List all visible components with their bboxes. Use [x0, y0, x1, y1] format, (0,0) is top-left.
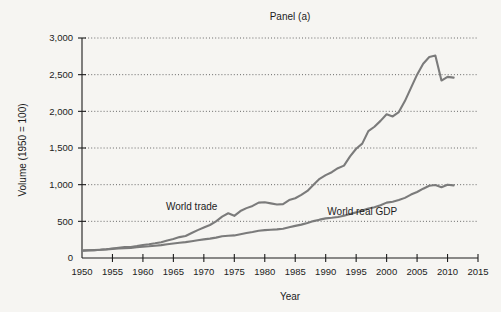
y-tick-label: 3,000 [49, 32, 73, 43]
x-tick-label: 1970 [193, 266, 214, 277]
x-tick-label: 1960 [132, 266, 153, 277]
y-tick-label: 1,000 [49, 179, 73, 190]
x-tick-label: 1980 [254, 266, 275, 277]
x-tick-label: 1950 [71, 266, 92, 277]
chart-figure: Panel (a) 05001,0001,5002,0002,5003,000 … [0, 0, 501, 312]
y-tick-label: 1,500 [49, 142, 73, 153]
y-tick-label: 2,500 [49, 69, 73, 80]
series-label: World real GDP [327, 206, 397, 217]
page-title: Panel (a) [270, 11, 311, 22]
x-tick-label: 1955 [102, 266, 123, 277]
x-tick-label: 2010 [437, 266, 458, 277]
x-tick-label: 2005 [407, 266, 428, 277]
y-axis-title: Volume (1950 = 100) [17, 103, 28, 196]
y-tick-label: 500 [57, 216, 73, 227]
x-tick-label: 2000 [376, 266, 397, 277]
x-tick-label: 1995 [346, 266, 367, 277]
x-tick-label: 1985 [285, 266, 306, 277]
x-tick-label: 1990 [315, 266, 336, 277]
x-tick-label: 2015 [467, 266, 488, 277]
y-tick-label: 0 [68, 252, 73, 263]
x-axis-title: Year [280, 291, 301, 302]
y-tick-label: 2,000 [49, 106, 73, 117]
line-chart-panel-a: Panel (a) 05001,0001,5002,0002,5003,000 … [0, 0, 501, 312]
series-label: World trade [166, 201, 218, 212]
x-tick-label: 1975 [224, 266, 245, 277]
x-tick-label: 1965 [163, 266, 184, 277]
